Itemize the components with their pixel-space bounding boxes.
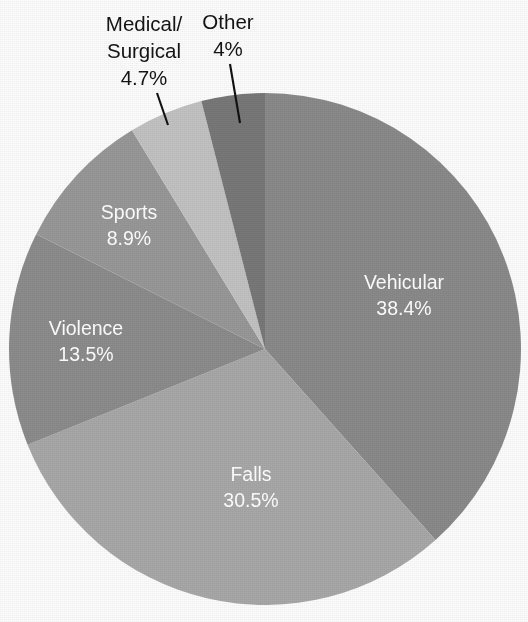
pie-category-label-falls: Falls bbox=[230, 463, 271, 485]
pie-value-label-violence: 13.5% bbox=[58, 343, 113, 365]
pie-value-label-other: 4% bbox=[213, 37, 243, 60]
pie-value-label-falls: 30.5% bbox=[223, 489, 278, 511]
pie-category-label-vehicular: Vehicular bbox=[364, 271, 445, 293]
pie-category-label-medical-surgical: Surgical bbox=[107, 39, 181, 62]
pie-value-label-vehicular: 38.4% bbox=[376, 297, 431, 319]
pie-chart: Vehicular38.4%Falls30.5%Violence13.5%Spo… bbox=[0, 0, 528, 622]
pie-category-label-violence: Violence bbox=[49, 317, 123, 339]
pie-value-label-medical-surgical: 4.7% bbox=[121, 66, 168, 89]
pie-chart-canvas: Vehicular38.4%Falls30.5%Violence13.5%Spo… bbox=[0, 0, 528, 622]
pie-category-label-sports: Sports bbox=[101, 201, 158, 223]
pie-category-label-other: Other bbox=[202, 10, 253, 33]
pie-category-label-medical-surgical: Medical/ bbox=[106, 12, 183, 35]
pie-value-label-sports: 8.9% bbox=[107, 227, 151, 249]
